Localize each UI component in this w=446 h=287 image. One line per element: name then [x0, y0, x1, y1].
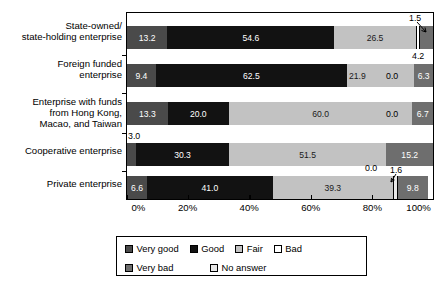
legend-label: Fair: [247, 244, 263, 254]
segment-fair: 26.5: [334, 26, 415, 49]
segment-value: 39.3: [324, 183, 341, 193]
legend-item-good: Good: [190, 244, 224, 254]
legend-label: Bad: [285, 244, 302, 254]
callout-bad-hk-macao-taiwan: 0.0: [386, 109, 398, 119]
segment-good: 41.0: [147, 176, 272, 199]
segment-value: 26.5: [367, 33, 384, 43]
x-tick: [433, 195, 434, 200]
x-axis-label-60: 60%: [301, 202, 320, 213]
stacked-bar: 6.6 41.0 39.3 9.8: [127, 176, 433, 199]
stacked-bar: 30.3 51.5 15.2: [127, 143, 433, 166]
stacked-bar: 13.2 54.6 26.5: [127, 26, 433, 49]
legend-row-1: Very good Good Fair Bad: [125, 241, 366, 257]
segment-fair: 51.5: [229, 143, 387, 166]
segment-value: 13.3: [139, 109, 156, 119]
legend-label: Very bad: [137, 263, 174, 273]
category-label-cooperative: Cooperative enterprise: [0, 145, 122, 156]
segment-very-bad: 9.8: [398, 176, 428, 199]
y-tick: [122, 55, 127, 56]
segment-value: 6.3: [418, 71, 430, 81]
legend-swatch-fair-icon: [235, 245, 243, 253]
segment-very-bad: 15.2: [386, 143, 433, 166]
x-axis-labels: 0% 20% 40% 60% 80% 100%: [126, 202, 434, 218]
segment-good: 62.5: [156, 64, 347, 87]
callout-very-bad-state-owned: 4.2: [412, 51, 424, 61]
x-tick: [127, 195, 128, 200]
callout-bad-state-owned: 1.5: [409, 13, 421, 23]
segment-very-bad: 6.3: [414, 64, 433, 87]
segment-very-good: 13.2: [127, 26, 167, 49]
y-tick: [122, 93, 127, 94]
segment-value: 6.6: [131, 183, 143, 193]
segment-very-good: [127, 143, 136, 166]
segment-value: 13.2: [139, 33, 156, 43]
x-tick: [372, 195, 373, 200]
segment-good: 30.3: [136, 143, 229, 166]
callout-no-answer-private: 1.6: [390, 165, 402, 175]
segment-very-good: 9.4: [127, 64, 156, 87]
bar-row-state-owned: 13.2 54.6 26.5: [127, 26, 433, 49]
segment-value: 6.7: [417, 109, 429, 119]
segment-value: 62.5: [243, 71, 260, 81]
legend-swatch-very-good-icon: [125, 245, 133, 253]
category-label-foreign-funded: Foreign funded enterprise: [0, 58, 122, 80]
category-label-hk-macao-taiwan: Enterprise with funds from Hong Kong, Ma…: [0, 96, 122, 130]
legend-item-very-good: Very good: [125, 244, 179, 254]
x-tick: [311, 195, 312, 200]
y-axis-category-labels: State-owned/ state-holding enterprise Fo…: [0, 0, 122, 200]
plot-inner: 13.2 54.6 26.5 1.5 4.2: [127, 13, 433, 199]
segment-good: 20.0: [168, 102, 229, 125]
x-tick: [188, 195, 189, 200]
segment-value: 30.3: [174, 150, 191, 160]
bar-row-private: 6.6 41.0 39.3 9.8: [127, 176, 433, 199]
y-tick: [122, 133, 127, 134]
x-axis-label-20: 20%: [178, 202, 197, 213]
bar-row-cooperative: 30.3 51.5 15.2: [127, 143, 433, 166]
callout-very-good-cooperative: 3.0: [128, 131, 140, 141]
callout-bad-private: 0.0: [365, 163, 377, 173]
segment-fair: 21.9: [347, 64, 414, 87]
leader-line-bad-state-owned: [417, 22, 431, 34]
legend-swatch-bad-icon: [274, 245, 282, 253]
legend-item-very-bad: Very bad: [125, 263, 199, 273]
segment-value: 15.2: [401, 150, 418, 160]
segment-value: 41.0: [202, 183, 219, 193]
y-tick: [122, 171, 127, 172]
x-axis-label-40: 40%: [240, 202, 259, 213]
legend: Very good Good Fair Bad Very bad No: [116, 236, 367, 276]
segment-very-good: 13.3: [127, 102, 168, 125]
legend-label: No answer: [222, 263, 267, 273]
bar-row-foreign-funded: 9.4 62.5 21.9 6.3 0.0: [127, 64, 433, 87]
legend-swatch-no-answer-icon: [210, 264, 218, 272]
category-label-state-owned: State-owned/ state-holding enterprise: [0, 20, 122, 42]
x-axis-label-100: 100%: [406, 202, 431, 213]
stacked-bar-chart: State-owned/ state-holding enterprise Fo…: [0, 0, 446, 287]
legend-swatch-very-bad-icon: [125, 264, 133, 272]
x-tick: [249, 195, 250, 200]
callout-bad-foreign-funded: 0.0: [386, 71, 398, 81]
leader-line-no-answer-private: [390, 174, 402, 184]
segment-value: 20.0: [190, 109, 207, 119]
segment-value: 60.0: [312, 109, 329, 119]
segment-very-bad: 6.7: [412, 102, 433, 125]
category-label-private: Private enterprise: [0, 178, 122, 189]
legend-swatch-good-icon: [190, 245, 198, 253]
legend-label: Very good: [137, 244, 179, 254]
legend-row-2: Very bad No answer: [125, 260, 366, 276]
plot-area: 13.2 54.6 26.5 1.5 4.2: [126, 12, 434, 200]
segment-value: 9.8: [407, 183, 419, 193]
bar-row-hk-macao-taiwan: 13.3 20.0 60.0 6.7 0.0: [127, 102, 433, 125]
segment-very-good: 6.6: [127, 176, 147, 199]
legend-item-fair: Fair: [235, 244, 263, 254]
x-axis-label-0: 0%: [131, 202, 145, 213]
legend-item-bad: Bad: [274, 244, 302, 254]
segment-value: 51.5: [299, 150, 316, 160]
x-axis-label-80: 80%: [363, 202, 382, 213]
legend-item-no-answer: No answer: [210, 263, 266, 273]
segment-good: 54.6: [167, 26, 334, 49]
segment-fair: 39.3: [273, 176, 393, 199]
legend-label: Good: [201, 244, 224, 254]
segment-fair: 60.0: [229, 102, 413, 125]
segment-value: 54.6: [243, 33, 260, 43]
segment-value: 21.9: [349, 71, 366, 81]
